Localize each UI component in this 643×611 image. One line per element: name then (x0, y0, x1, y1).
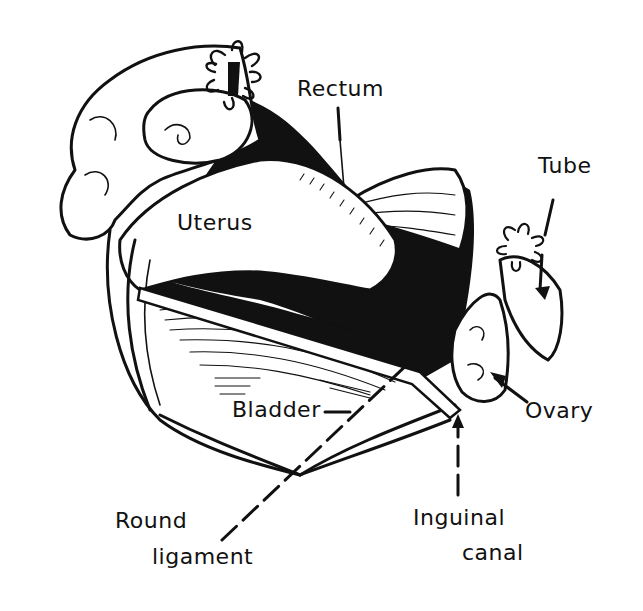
label-bladder: Bladder (232, 397, 321, 423)
label-uterus: Uterus (177, 210, 253, 236)
label-inguinal-canal-line2: canal (462, 540, 524, 566)
label-round-ligament-line2: ligament (152, 544, 253, 570)
label-rectum: Rectum (297, 76, 384, 102)
label-ovary: Ovary (525, 398, 593, 424)
label-tube: Tube (538, 153, 592, 179)
label-inguinal-canal-line1: Inguinal (413, 505, 505, 531)
label-round-ligament-line1: Round (115, 508, 187, 534)
